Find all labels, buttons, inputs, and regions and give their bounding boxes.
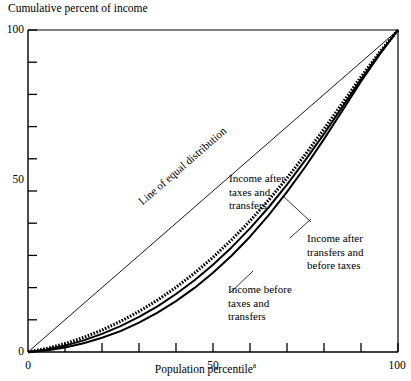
annotation-income-before-taxes-and-transfers: Income before taxes and transfers: [228, 283, 292, 324]
annotation-income-after-transfers-and-before-taxes: Income after transfers and before taxes: [307, 232, 364, 273]
annotation-line-1: Income after: [229, 172, 285, 186]
annotation-line-3: before taxes: [307, 259, 364, 273]
chart-canvas: [0, 0, 411, 381]
lorenz-curve-chart: Cumulative percent of income 100 50 0 0 …: [0, 0, 411, 381]
y-axis-ticks: [28, 30, 37, 320]
x-axis-title-superscript: a: [253, 361, 256, 370]
annotation-line-2: taxes and: [228, 297, 292, 311]
x-axis-title: Population percentilea: [0, 361, 411, 375]
annotation-line-2: transfers and: [307, 246, 364, 260]
annotation-line-1: Income before: [228, 283, 292, 297]
annotation-line-2: taxes and: [229, 186, 285, 200]
annotation-line-3: transfers: [228, 310, 292, 324]
x-axis-title-text: Population percentile: [155, 363, 253, 375]
series-line-of-equal-distribution: [28, 30, 398, 352]
annotation-line-1: Income after: [307, 232, 364, 246]
annotation-line-3: transfers: [229, 199, 285, 213]
annotation-income-after-taxes-and-transfers: Income after taxes and transfers: [229, 172, 285, 213]
x-axis-ticks: [65, 343, 398, 352]
